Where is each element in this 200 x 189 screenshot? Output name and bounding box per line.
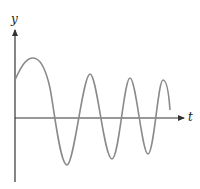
t-axis-label: t — [188, 110, 193, 124]
y-axis-label: y — [11, 12, 18, 26]
oscillation-diagram — [0, 0, 200, 189]
oscillation-curve — [15, 58, 170, 165]
